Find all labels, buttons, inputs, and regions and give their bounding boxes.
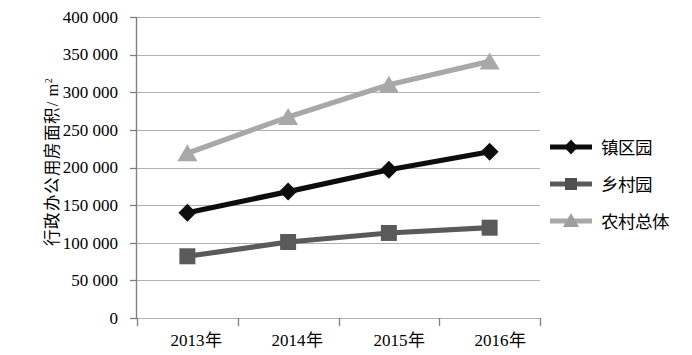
legend-item: 农村总体 <box>548 202 692 239</box>
chart-legend: 镇区园 乡村园 农村总体 <box>548 128 692 239</box>
chart-figure: 行政办公用房面积/ m2 400 000 350 000 300 000 250… <box>0 0 692 355</box>
legend-swatch-diamond-icon <box>548 136 594 158</box>
x-tick-label: 2016年 <box>440 326 560 351</box>
legend-item: 乡村园 <box>548 165 692 202</box>
legend-label: 农村总体 <box>601 208 669 233</box>
legend-swatch-triangle-icon <box>548 210 594 232</box>
legend-label: 镇区园 <box>601 134 652 159</box>
legend-swatch-square-icon <box>548 173 594 195</box>
legend-item: 镇区园 <box>548 128 692 165</box>
legend-label: 乡村园 <box>601 171 652 196</box>
